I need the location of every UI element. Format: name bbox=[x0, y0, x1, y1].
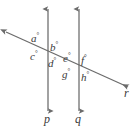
angle-label-f: f° bbox=[81, 54, 87, 66]
line-label-p: p bbox=[44, 113, 50, 125]
line-label-q: q bbox=[75, 113, 81, 125]
angle-label-h: h° bbox=[81, 71, 89, 83]
line-label-r: r bbox=[124, 87, 129, 99]
angle-label-a: a° bbox=[31, 32, 39, 44]
angle-label-d: d° bbox=[48, 57, 56, 69]
angle-label-b: b° bbox=[50, 41, 58, 53]
angle-label-c: c° bbox=[30, 50, 38, 62]
angle-label-e: e° bbox=[63, 52, 71, 64]
angle-label-g: g° bbox=[62, 68, 70, 80]
geometry-diagram: a° b° c° d° e° f° g° h° p q r bbox=[0, 0, 138, 133]
